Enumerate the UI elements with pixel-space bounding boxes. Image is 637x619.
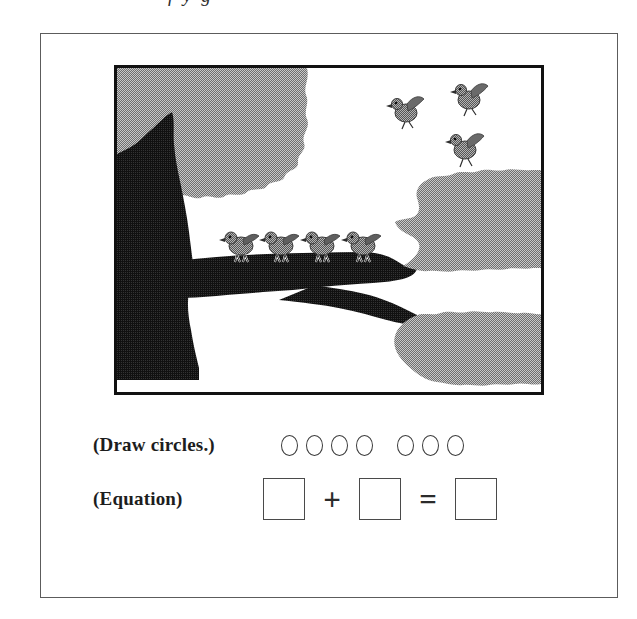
equation-addend-box-2[interactable] [359,478,401,520]
clipped-header-text: f y g [168,0,213,7]
circle-marker[interactable] [281,435,298,456]
circle-marker[interactable] [356,435,373,456]
picture-frame [114,65,544,395]
worksheet-card: (Draw circles.) (Equation) + = [40,33,618,598]
equation-addend-box-1[interactable] [263,478,305,520]
circle-marker[interactable] [306,435,323,456]
circle-group-first [281,435,373,456]
draw-circles-row: (Draw circles.) [41,422,617,468]
equation-row: (Equation) + = [41,476,617,522]
circle-groups [281,435,464,456]
circle-marker[interactable] [397,435,414,456]
circle-group-second [397,435,464,456]
birds-in-tree-illustration [117,68,541,392]
circle-marker[interactable] [447,435,464,456]
draw-circles-label: (Draw circles.) [93,434,215,456]
plus-operator: + [319,484,345,515]
circle-marker[interactable] [331,435,348,456]
clipped-header-strip: f y g [0,0,637,14]
equation-line: + = [263,478,497,520]
equation-label: (Equation) [93,488,183,510]
equals-operator: = [415,484,441,515]
equation-sum-box[interactable] [455,478,497,520]
circle-marker[interactable] [422,435,439,456]
